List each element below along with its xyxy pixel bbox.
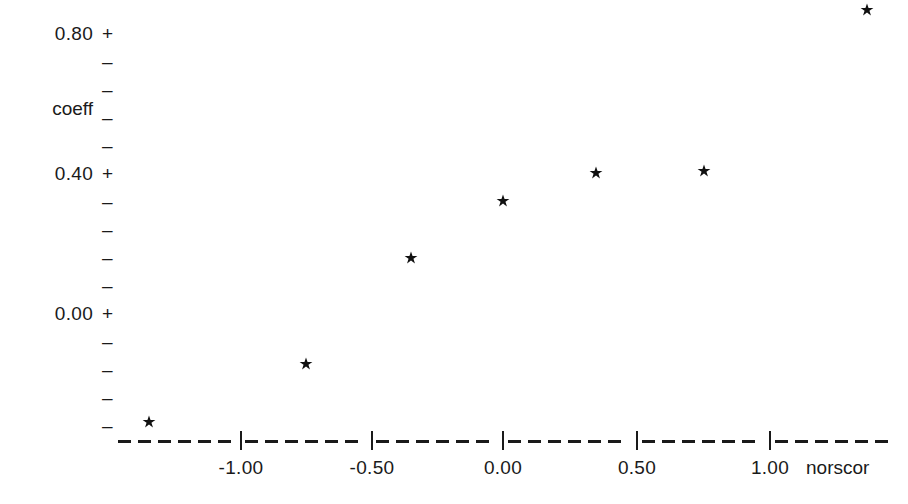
y-major-tick-1: + bbox=[102, 164, 118, 183]
y-minor-tick-0d: – bbox=[102, 136, 118, 155]
x-tick-label-0: -1.00 bbox=[181, 458, 301, 477]
y-minor-tick-2a: – bbox=[102, 332, 118, 351]
y-minor-tick-1c: – bbox=[102, 248, 118, 267]
x-major-tick-2 bbox=[502, 431, 504, 450]
scatter-plot-figure: 0.80 0.40 0.00 coeff + – – – – + – – – –… bbox=[0, 0, 908, 504]
y-minor-tick-2b: – bbox=[102, 360, 118, 379]
x-major-tick-0 bbox=[240, 431, 242, 450]
y-minor-tick-1a: – bbox=[102, 192, 118, 211]
data-point-marker bbox=[142, 415, 156, 429]
x-tick-label-1: -0.50 bbox=[312, 458, 432, 477]
data-point-marker bbox=[496, 194, 510, 208]
x-major-tick-4 bbox=[769, 431, 771, 450]
data-point-marker bbox=[589, 166, 603, 180]
y-minor-tick-0b: – bbox=[102, 80, 118, 99]
data-point-marker bbox=[404, 251, 418, 265]
x-tick-label-2: 0.00 bbox=[443, 458, 563, 477]
y-minor-tick-2d: – bbox=[102, 416, 118, 435]
x-axis-title: norscor bbox=[806, 458, 869, 477]
y-tick-label-2: 0.00 bbox=[0, 304, 93, 323]
x-major-tick-3 bbox=[636, 431, 638, 450]
y-minor-tick-2c: – bbox=[102, 388, 118, 407]
x-major-tick-1 bbox=[371, 431, 373, 450]
y-tick-label-1: 0.40 bbox=[0, 164, 93, 183]
data-point-marker bbox=[299, 357, 313, 371]
data-point-marker bbox=[860, 3, 874, 17]
x-tick-label-3: 0.50 bbox=[577, 458, 697, 477]
y-axis-title: coeff bbox=[0, 99, 93, 118]
y-tick-label-0: 0.80 bbox=[0, 24, 93, 43]
y-major-tick-2: + bbox=[102, 304, 118, 323]
y-minor-tick-1b: – bbox=[102, 220, 118, 239]
y-minor-tick-1d: – bbox=[102, 276, 118, 295]
data-point-marker bbox=[697, 164, 711, 178]
y-minor-tick-0a: – bbox=[102, 52, 118, 71]
y-minor-tick-0c: – bbox=[102, 108, 118, 127]
y-major-tick-0: + bbox=[102, 24, 118, 43]
